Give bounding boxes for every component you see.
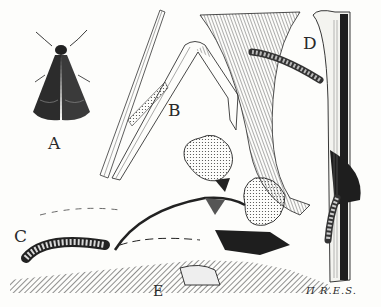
illustration-drawing (0, 0, 381, 307)
moth-figure-a (33, 30, 90, 120)
label-b: B (168, 100, 181, 120)
label-a: A (48, 133, 60, 153)
ground (10, 208, 330, 293)
label-d: D (303, 33, 317, 53)
label-e: E (153, 283, 163, 299)
caterpillar-figure-c (26, 242, 105, 258)
artist-monogram: Π (306, 285, 316, 296)
label-c: C (14, 226, 27, 246)
artist-signature: R.E.S. (320, 285, 357, 296)
illustration: A B C D E Π R.E.S. (0, 0, 381, 307)
